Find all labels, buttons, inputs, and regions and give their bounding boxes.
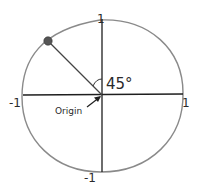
radius-line — [48, 41, 102, 95]
unit-circle-diagram: 1 -1 -1 1 45° Origin — [0, 0, 198, 190]
point-on-circle — [44, 37, 52, 45]
label-right-1: 1 — [182, 96, 190, 110]
label-bottom-neg1: -1 — [84, 171, 96, 185]
label-top-1: 1 — [97, 12, 105, 26]
angle-arc — [93, 79, 102, 86]
label-left-neg1: -1 — [9, 96, 21, 110]
x-axis — [23, 94, 183, 95]
angle-label: 45° — [106, 75, 133, 93]
origin-label: Origin — [55, 106, 82, 116]
